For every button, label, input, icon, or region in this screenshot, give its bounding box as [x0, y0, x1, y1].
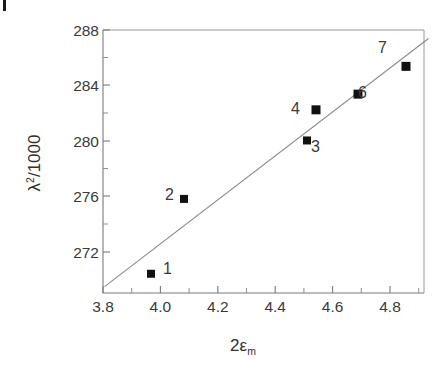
y-axis-title-tail: /1000	[25, 135, 44, 178]
y-tick-label-288: 288	[73, 22, 99, 39]
y-tick-label-272: 272	[73, 244, 99, 261]
data-point-label-4: 4	[291, 100, 300, 117]
figure-container: 288 284 280 276 272 3.8 4.0 4.2 4.4	[0, 0, 441, 374]
x-tick-label-4-4: 4.4	[264, 298, 286, 315]
frame-top-right-edge	[103, 30, 424, 293]
x-tick-label-4-2: 4.2	[207, 298, 229, 315]
data-point-label-3: 3	[311, 138, 320, 155]
data-point-label-1: 1	[163, 260, 172, 277]
x-tick-label-4-8: 4.8	[379, 298, 401, 315]
plot-frame	[103, 30, 424, 293]
svg-text:2εm: 2εm	[230, 336, 256, 357]
data-point-label-6: 6	[358, 84, 367, 101]
svg-text:λ2/1000: λ2/1000	[24, 135, 44, 192]
data-point-labels: 1 2 3 4 6 7	[163, 39, 387, 277]
data-point-3[interactable]	[303, 136, 311, 144]
linear-regression-line	[105, 39, 429, 287]
x-tick-label-4-0: 4.0	[150, 298, 172, 315]
scatter-plot: 288 284 280 276 272 3.8 4.0 4.2 4.4	[0, 0, 441, 374]
x-axis-title-lead: 2ε	[230, 336, 247, 355]
y-tick-label-276: 276	[73, 188, 99, 205]
data-point-label-7: 7	[378, 39, 387, 56]
y-axis-title: λ2/1000	[24, 135, 44, 192]
data-markers	[147, 62, 411, 278]
axis-left-bottom	[103, 30, 424, 293]
data-point-1[interactable]	[147, 270, 155, 278]
x-tick-label-4-6: 4.6	[322, 298, 344, 315]
data-point-7[interactable]	[402, 62, 411, 71]
x-axis-title-subscript: m	[247, 345, 256, 357]
y-tick-label-280: 280	[73, 133, 99, 150]
x-tick-labels: 3.8 4.0 4.2 4.4 4.6 4.8	[92, 298, 401, 315]
x-tick-label-3-8: 3.8	[92, 298, 114, 315]
x-axis-ticks	[103, 286, 419, 293]
data-point-2[interactable]	[180, 195, 188, 203]
y-axis-ticks	[103, 30, 110, 252]
y-tick-label-284: 284	[73, 77, 99, 94]
x-axis-title: 2εm	[230, 336, 256, 357]
data-point-4[interactable]	[312, 105, 321, 114]
data-point-label-2: 2	[165, 186, 174, 203]
y-tick-labels: 288 284 280 276 272	[73, 22, 99, 261]
